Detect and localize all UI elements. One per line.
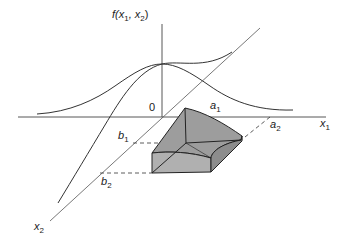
a2-label: a2 (270, 119, 281, 133)
b1-label: b1 (118, 130, 129, 144)
diagram-canvas (0, 0, 343, 243)
b2-label: b2 (101, 176, 112, 190)
x2-axis (50, 28, 260, 221)
probability-solid (152, 108, 242, 173)
a1-label: a1 (210, 100, 221, 114)
marginal-curve-x1 (37, 64, 293, 114)
f-axis-label: f(x1, x2) (112, 9, 148, 23)
x1-axis-label: x1 (320, 118, 330, 132)
origin-label: 0 (149, 102, 155, 113)
a2-projection (240, 117, 270, 141)
density-diagram: f(x1, x2) 0 x1 x2 a1 a2 b1 b2 (0, 0, 343, 243)
x2-axis-label: x2 (34, 221, 44, 235)
